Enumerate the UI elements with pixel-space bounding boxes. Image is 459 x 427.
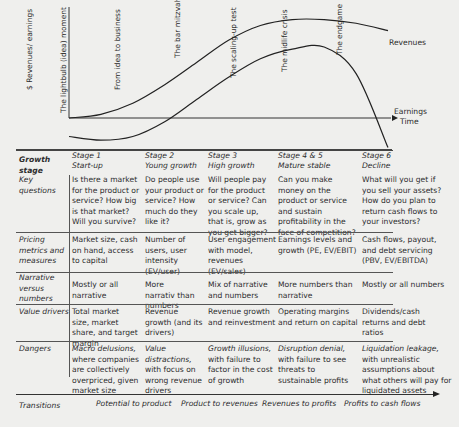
stage-1-num: Stage 1 xyxy=(72,151,101,162)
narrative-stage-6: Mostly or all numbers xyxy=(362,280,448,291)
growth-stage-header: Growth stage xyxy=(19,155,67,176)
narrative-stage-3: Mix of narrative and numbers xyxy=(208,280,268,301)
row-label-transitions: Transitions xyxy=(19,401,60,412)
transitions-arrowhead-icon xyxy=(433,391,440,397)
stage-3-num: Stage 3 xyxy=(208,151,237,162)
stage-2-name: Young growth xyxy=(145,161,197,172)
row-label-value-drivers: Value drivers xyxy=(19,307,69,318)
stage-4-5-num: Stage 4 & 5 xyxy=(278,151,323,162)
danger-title: Value distractions, xyxy=(145,344,192,364)
danger-title: Growth illusions, xyxy=(208,344,271,353)
dangers-stage-2: Value distractions, with focus on wrong … xyxy=(145,344,209,397)
transition-4: Profits to cash flows xyxy=(344,399,420,410)
key-questions-stage-2: Do people use your product or service? H… xyxy=(145,175,207,228)
row-divider xyxy=(16,232,393,233)
transitions-arrow-line xyxy=(16,394,434,395)
key-questions-stage-3: Will people pay for the product or servi… xyxy=(208,175,274,239)
danger-description: with failure to see threats to sustainab… xyxy=(278,355,348,385)
table-vertical-divider xyxy=(69,175,70,377)
row-divider xyxy=(16,341,393,342)
stage-6-name: Decline xyxy=(362,161,390,172)
pricing-stage-1: Market size, cash on hand, access to cap… xyxy=(72,235,140,267)
danger-description: with unrealistic assumptions about what … xyxy=(362,355,451,396)
danger-description: with focus on wrong revenue drivers xyxy=(145,365,202,395)
transition-2: Product to revenues xyxy=(181,399,258,410)
value-drivers-stage-2: Revenue growth (and its drivers) xyxy=(145,307,205,339)
transition-3: Revenues to profits xyxy=(262,399,336,410)
value-drivers-stage-6: Dividends/cash returns and debt ratios xyxy=(362,307,442,339)
row-label-key-questions: Key questions xyxy=(19,175,65,196)
stage-6-num: Stage 6 xyxy=(362,151,391,162)
dangers-stage-3: Growth illusions, with failure to factor… xyxy=(208,344,276,386)
value-drivers-stage-4-5: Operating margins and return on capital xyxy=(278,307,360,328)
stage-1-name: Start-up xyxy=(72,161,103,172)
danger-description: with failure to factor in the cost of gr… xyxy=(208,355,273,385)
transition-1: Potential to product xyxy=(96,399,171,410)
dangers-stage-4-5: Disruption denial, with failure to see t… xyxy=(278,344,356,386)
stage-2-num: Stage 2 xyxy=(145,151,174,162)
row-label-dangers: Dangers xyxy=(19,344,69,355)
pricing-stage-6: Cash flows, payout, and debt servicing (… xyxy=(362,235,448,267)
key-questions-stage-1: Is there a market for the product or ser… xyxy=(72,175,144,228)
row-divider xyxy=(16,304,393,305)
danger-title: Liquidation leakage, xyxy=(362,344,439,353)
row-label-narrative: Narrative versus numbers xyxy=(19,273,59,305)
danger-description: where companies are collectively overpri… xyxy=(72,355,139,396)
row-label-pricing-metrics: Pricing metrics and measures xyxy=(19,235,71,267)
value-drivers-stage-3: Revenue growth and reinvestment xyxy=(208,307,276,328)
pricing-stage-4-5: Earnings levels and growth (PE, EV/EBIT) xyxy=(278,235,360,256)
danger-title: Macro delusions, xyxy=(72,344,136,353)
key-questions-stage-4-5: Can you make money on the product or ser… xyxy=(278,175,360,239)
lifecycle-table: Growth stage Stage 1 Start-up Stage 2 Yo… xyxy=(0,0,459,427)
danger-title: Disruption denial, xyxy=(278,344,345,353)
dangers-stage-1: Macro delusions, where companies are col… xyxy=(72,344,142,397)
key-questions-stage-6: What will you get if you sell your asset… xyxy=(362,175,444,228)
stage-3-name: High growth xyxy=(208,161,254,172)
narrative-stage-4-5: More numbers than narrative xyxy=(278,280,356,301)
stage-4-5-name: Mature stable xyxy=(278,161,330,172)
row-divider xyxy=(16,272,393,273)
narrative-stage-1: Mostly or all narrative xyxy=(72,280,132,301)
dangers-stage-6: Liquidation leakage, with unrealistic as… xyxy=(362,344,454,397)
